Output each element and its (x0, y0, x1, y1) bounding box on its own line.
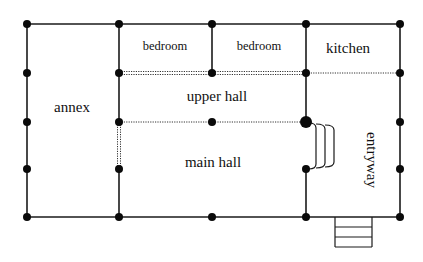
node (23, 118, 31, 126)
node (208, 20, 216, 28)
node (396, 165, 404, 173)
room-label-annex: annex (54, 99, 90, 115)
node (23, 69, 31, 77)
room-label-upper-hall: upper hall (187, 88, 247, 104)
node (23, 20, 31, 28)
node (208, 213, 216, 221)
arched-doorway (309, 123, 334, 169)
node (115, 213, 123, 221)
node (396, 118, 404, 126)
floor-plan-diagram: annex bedroom bedroom kitchen upper hall… (0, 0, 423, 262)
node (396, 213, 404, 221)
node (115, 165, 123, 173)
node (115, 69, 123, 77)
node-large (300, 116, 312, 128)
room-label-main-hall: main hall (185, 154, 241, 170)
node (302, 20, 310, 28)
node (208, 118, 216, 126)
room-label-entryway: entryway (364, 132, 380, 188)
node (115, 118, 123, 126)
node (23, 213, 31, 221)
single-dotted-lines (119, 73, 400, 122)
node (396, 69, 404, 77)
node (23, 165, 31, 173)
exterior-steps (335, 217, 372, 247)
node (208, 69, 216, 77)
node (396, 20, 404, 28)
room-label-bedroom-1: bedroom (143, 39, 188, 53)
node (115, 20, 123, 28)
node (302, 165, 310, 173)
room-label-kitchen: kitchen (326, 40, 371, 56)
node (302, 69, 310, 77)
node (302, 213, 310, 221)
room-label-bedroom-2: bedroom (237, 39, 282, 53)
